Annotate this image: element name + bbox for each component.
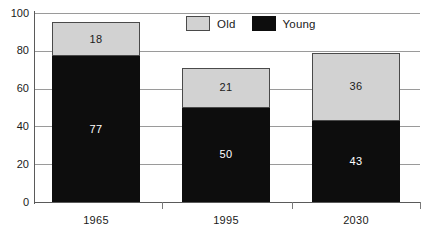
bar-segment-old-2030[interactable]: 36 [312,53,400,121]
bar-label-young-1965: 77 [90,124,103,135]
bar-group-1995[interactable]: 21 50 [182,68,270,202]
young-swatch-icon [252,16,276,31]
bar-label-old-1995: 21 [220,82,233,93]
legend-label-old: Old [217,18,236,30]
bar-segment-young-1965[interactable]: 77 [52,56,140,202]
y-tick-label-80: 80 [0,45,29,56]
chart-legend: Old Young [186,16,316,31]
bar-group-1965[interactable]: 18 77 [52,22,140,202]
bar-label-young-2030: 43 [350,156,363,167]
bar-segment-young-2030[interactable]: 43 [312,121,400,202]
x-axis-line [34,202,421,203]
bar-segment-old-1965[interactable]: 18 [52,22,140,56]
legend-label-young: Young [283,18,316,30]
y-tick-label-40: 40 [0,121,29,132]
stacked-bar-chart: 100 80 60 40 20 0 18 77 21 50 [0,0,428,238]
legend-item-young[interactable]: Young [252,16,316,31]
bar-segment-young-1995[interactable]: 50 [182,108,270,203]
y-tick-label-60: 60 [0,83,29,94]
bar-segment-old-1995[interactable]: 21 [182,68,270,108]
bar-label-young-1995: 50 [220,149,233,160]
legend-item-old[interactable]: Old [186,16,236,31]
x-axis-tick-3 [420,202,421,209]
x-axis-tick-1 [162,202,163,209]
y-axis-tick-labels: 100 80 60 40 20 0 [0,0,34,238]
bar-group-2030[interactable]: 36 43 [312,53,400,202]
plot-area: 18 77 21 50 36 43 [34,13,420,202]
x-axis-tick-2 [292,202,293,209]
y-tick-label-0: 0 [0,197,29,208]
y-tick-label-100: 100 [0,8,29,19]
gridline-100 [34,13,420,14]
x-category-label-2030: 2030 [312,214,400,226]
x-category-label-1995: 1995 [182,214,270,226]
y-tick-label-20: 20 [0,159,29,170]
old-swatch-icon [186,16,210,31]
bar-label-old-1965: 18 [90,34,103,45]
y-axis-line [34,11,35,204]
x-category-label-1965: 1965 [52,214,140,226]
bar-label-old-2030: 36 [350,81,363,92]
